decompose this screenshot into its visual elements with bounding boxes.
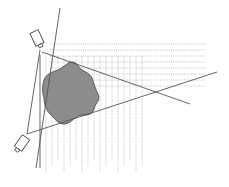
top-sensor bbox=[30, 30, 45, 49]
sensor-object-diagram bbox=[0, 0, 229, 187]
sensor-connector-line bbox=[27, 50, 40, 134]
bottom-sensor bbox=[13, 135, 30, 154]
